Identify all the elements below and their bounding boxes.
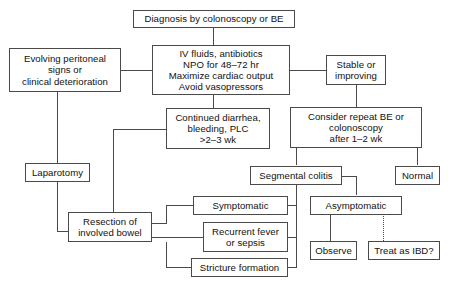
edge-right-bus [296, 185, 297, 268]
node-stable-improving[interactable]: Stable or improving [326, 55, 386, 85]
edge-segmental-right-v [356, 176, 357, 195]
edge-resection-to-recurrent [152, 237, 203, 238]
flowchart-canvas: Diagnosis by colonoscopy or BE IV fluids… [0, 0, 452, 288]
edge-consider-to-segmental [296, 148, 297, 165]
node-resection-involved-bowel[interactable]: Resection of involved bowel [68, 212, 152, 242]
node-treat-as-ibd[interactable]: Treat as IBD? [368, 241, 440, 260]
edge-stable-to-consider-repeat [356, 85, 357, 107]
edge-consider-to-normal [417, 148, 418, 165]
edge-resection-to-stricture-v [166, 242, 167, 268]
edge-resection-to-stricture-h [166, 267, 191, 268]
edge-laparotomy-down [57, 182, 58, 231]
edge-iv-fluids-to-stable [290, 70, 326, 71]
edge-continued-to-resection-v [113, 129, 114, 225]
edge-iv-fluids-to-evolving [121, 70, 153, 71]
edge-resection-to-symptomatic-v [166, 205, 167, 223]
edge-evolving-to-laparotomy [57, 92, 58, 163]
node-recurrent-fever[interactable]: Recurrent fever or sepsis [203, 222, 288, 252]
node-observe[interactable]: Observe [310, 241, 357, 260]
node-symptomatic[interactable]: Symptomatic [193, 196, 288, 215]
edge-resection-to-symptomatic-h [166, 205, 193, 206]
edge-recurrent-to-bus [288, 237, 297, 238]
node-continued-diarrhea[interactable]: Continued diarrhea, bleeding, PLC >2–3 w… [166, 108, 270, 149]
node-stricture-formation[interactable]: Stricture formation [191, 258, 288, 277]
node-consider-repeat[interactable]: Consider repeat BE or colonoscopy after … [290, 107, 422, 148]
edge-resection-top-h [152, 223, 167, 224]
edge-iv-fluids-to-continued [213, 95, 214, 108]
edge-stricture-to-bus [288, 267, 297, 268]
edge-symptomatic-to-bus [288, 205, 297, 206]
node-segmental-colitis[interactable]: Segmental colitis [250, 166, 342, 185]
node-diagnosis[interactable]: Diagnosis by colonoscopy or BE [133, 10, 295, 28]
node-iv-fluids[interactable]: IV fluids, antibiotics NPO for 48–72 hr … [152, 45, 290, 95]
node-laparotomy[interactable]: Laparotomy [25, 163, 90, 182]
edge-segmental-right-h [342, 176, 356, 177]
edge-asymptomatic-to-treat-ibd-dotted [383, 214, 384, 241]
edge-asymptomatic-to-observe [330, 214, 331, 241]
edge-diagnosis-to-iv-fluids [213, 27, 214, 45]
node-normal[interactable]: Normal [395, 166, 440, 185]
edge-continued-to-resection-h [113, 129, 166, 130]
node-asymptomatic[interactable]: Asymptomatic [310, 196, 402, 215]
node-evolving-peritoneal[interactable]: Evolving peritoneal signs or clinical de… [9, 48, 121, 92]
